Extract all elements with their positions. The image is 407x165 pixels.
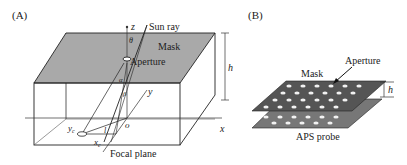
panel-a: (A) x z Sun ray θ Aperture Mask α β [12,9,233,159]
focal-spot [78,132,87,136]
h-label: h [228,62,233,73]
panel-b: (B) Mask Aperture h APS probe [248,9,394,142]
panel-a-label: (A) [12,9,28,22]
xc-label: xc [93,137,101,148]
theta-label: θ [129,36,133,45]
aperture-label: Aperture [130,56,166,67]
z-axis-label: z [130,21,135,32]
alpha-label: α [119,76,123,84]
focal-plane-label: Focal plane [110,148,157,159]
x-axis-label: x [219,123,225,134]
box-right-bottom-edge [180,95,215,145]
aperture-label-b: Aperture [345,55,381,66]
box-left-bottom-edge [34,119,66,145]
mask-label: Mask [158,41,180,52]
h-label-b: h [388,84,393,95]
mask-label-b: Mask [301,68,323,79]
panel-b-label: (B) [248,9,263,22]
origin-label: o [125,120,130,130]
y-axis-label: y [147,86,153,97]
z-axis-arrow-icon [126,26,128,28]
sun-ray-label: Sun ray [149,21,180,32]
yc-label: yc [67,123,75,134]
figure: (A) x z Sun ray θ Aperture Mask α β [0,0,407,165]
aps-probe-label: APS probe [296,131,340,142]
